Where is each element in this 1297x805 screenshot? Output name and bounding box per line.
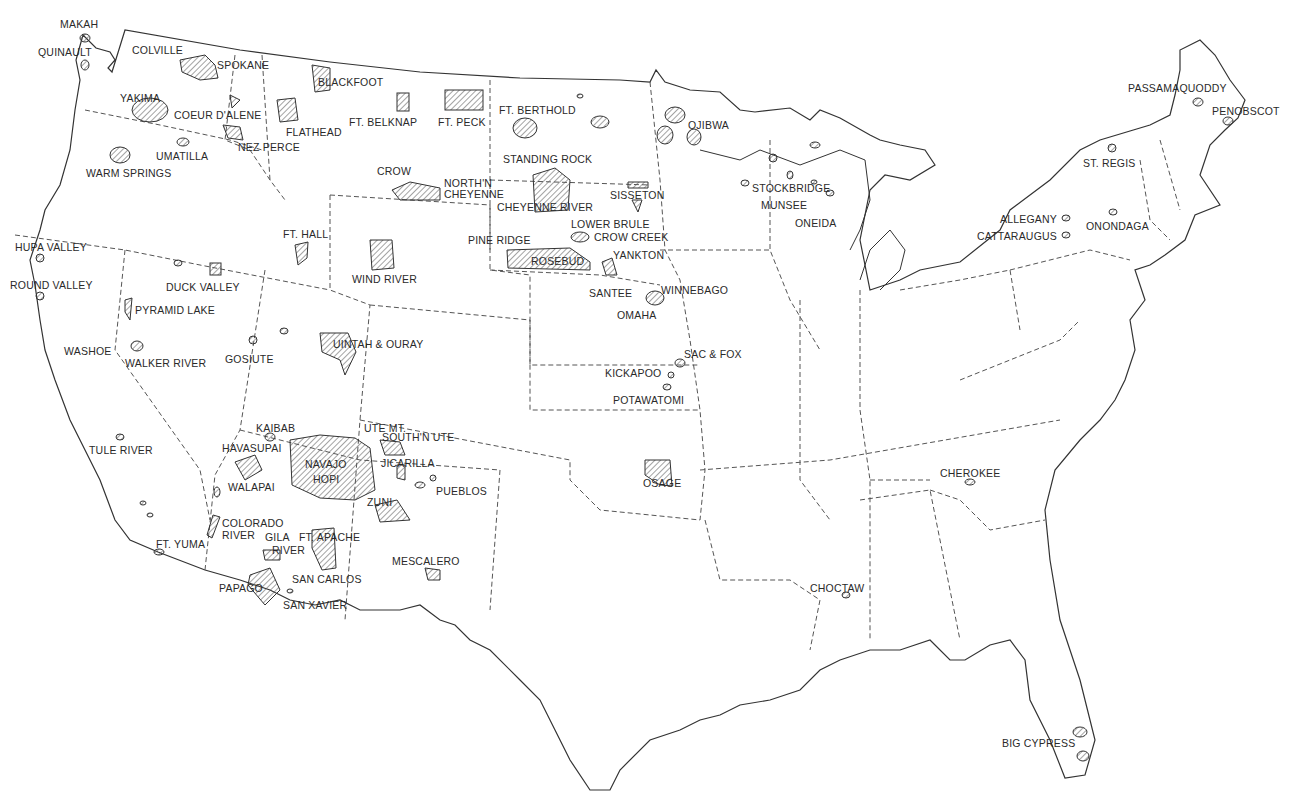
reservation-label: ZUNI	[367, 497, 392, 508]
reservation-label: FLATHEAD	[286, 127, 342, 138]
reservation-label: SPOKANE	[217, 60, 269, 71]
reservation-label: DUCK VALLEY	[166, 282, 240, 293]
reservation-label: ROSEBUD	[531, 256, 584, 267]
reservation-label: COEUR D'ALENE	[174, 110, 261, 121]
reservation-label: WALAPAI	[228, 482, 275, 493]
reservation-label: FT. BERTHOLD	[499, 105, 576, 116]
reservation-label: HOPI	[313, 474, 339, 485]
reservation-label: NAVAJO	[305, 459, 347, 470]
reservation-label: RIVER	[272, 545, 305, 556]
reservation-label: WARM SPRINGS	[86, 168, 171, 179]
reservation-label: FT. PECK	[438, 117, 486, 128]
reservation-label: HAVASUPAI	[222, 443, 282, 454]
reservation-label: CROW	[377, 166, 411, 177]
reservation-label: OJIBWA	[688, 120, 729, 131]
reservation-label: LOWER BRULE	[571, 219, 650, 230]
reservation-label: GOSIUTE	[225, 354, 274, 365]
reservation-label: GILA	[265, 532, 290, 543]
reservation-label: WALKER RIVER	[125, 358, 206, 369]
reservation-label: KICKAPOO	[605, 368, 661, 379]
state-borders	[15, 55, 1180, 650]
reservation-label: STANDING ROCK	[503, 154, 592, 165]
reservation-label: CHOCTAW	[810, 583, 864, 594]
reservation-label: WIND RIVER	[352, 274, 417, 285]
reservation-label: CHEYENNE RIVER	[497, 202, 593, 213]
reservation-label: YAKIMA	[120, 93, 160, 104]
reservation-label: JICARILLA	[381, 458, 435, 469]
reservation-label: PENOBSCOT	[1212, 106, 1280, 117]
reservation-label: WINNEBAGO	[661, 285, 728, 296]
reservation-label: UINTAH & OURAY	[333, 339, 424, 350]
reservation-label: ST. REGIS	[1083, 158, 1136, 169]
reservation-label: SAN XAVIER	[283, 600, 347, 611]
reservation-label: COLVILLE	[132, 45, 183, 56]
reservation-label: QUINAULT	[38, 47, 92, 58]
reservation-label: SAN CARLOS	[292, 574, 362, 585]
reservation-label: MAKAH	[60, 19, 98, 30]
reservation-label: STOCKBRIDGE	[752, 183, 830, 194]
reservation-label: CHEROKEE	[940, 468, 1001, 479]
reservation-label: ALLEGANY	[1000, 214, 1057, 225]
reservation-map: MAKAHQUINAULTCOLVILLESPOKANEBLACKFOOTYAK…	[0, 0, 1297, 805]
reservation-label: MESCALERO	[392, 556, 460, 567]
reservation-label: SAC & FOX	[684, 349, 742, 360]
reservation-label: BLACKFOOT	[318, 77, 383, 88]
reservation-label: PAPAGO	[219, 583, 263, 594]
reservation-label: MUNSEE	[761, 200, 807, 211]
reservation-label: SISSETON	[610, 190, 665, 201]
reservation-label: OSAGE	[643, 478, 681, 489]
reservation-label: SOUTH'N UTE	[382, 432, 454, 443]
reservation-label: FT. BELKNAP	[349, 117, 417, 128]
reservation-label: CATTARAUGUS	[977, 231, 1057, 242]
reservation-label: SANTEE	[589, 288, 632, 299]
reservation-label: YANKTON	[613, 250, 664, 261]
reservation-label: PASSAMAQUODDY	[1128, 83, 1227, 94]
reservation-label: FT. HALL	[283, 229, 328, 240]
reservation-label: FT. APACHE	[299, 532, 360, 543]
reservation-label: OMAHA	[617, 310, 657, 321]
reservation-label: PUEBLOS	[436, 486, 487, 497]
reservation-label: CROW CREEK	[594, 232, 668, 243]
reservation-label: UMATILLA	[156, 151, 208, 162]
reservation-label: COLORADO	[222, 518, 284, 529]
reservation-label: WASHOE	[64, 346, 111, 357]
reservation-label: ONEIDA	[795, 218, 836, 229]
reservation-label: RIVER	[222, 530, 255, 541]
reservation-label: CHEYENNE	[444, 189, 504, 200]
reservation-label: FT. YUMA	[156, 539, 205, 550]
reservation-label: TULE RIVER	[89, 445, 153, 456]
reservation-label: ONONDAGA	[1086, 221, 1149, 232]
reservation-label: PINE RIDGE	[468, 235, 531, 246]
reservation-label: HUPA VALLEY	[15, 242, 87, 253]
reservation-label: POTAWATOMI	[613, 395, 684, 406]
reservation-label: BIG CYPRESS	[1002, 738, 1075, 749]
reservation-label: PYRAMID LAKE	[135, 305, 215, 316]
reservation-label: KAIBAB	[256, 423, 295, 434]
reservation-label: NEZ PERCE	[238, 142, 300, 153]
reservation-label: ROUND VALLEY	[10, 280, 93, 291]
